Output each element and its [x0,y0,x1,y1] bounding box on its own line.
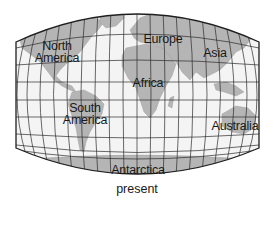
label-asia: Asia [200,47,230,59]
map-caption: present [0,182,274,196]
label-antarctica: Antarctica [107,164,169,176]
label-africa: Africa [131,77,165,89]
label-north-america: North America [28,40,86,64]
label-north-america-line2: America [28,52,86,64]
label-south-america-line2: America [58,114,112,126]
label-europe: Europe [141,33,185,45]
label-australia: Australia [210,120,260,132]
label-south-america: South America [58,102,112,126]
